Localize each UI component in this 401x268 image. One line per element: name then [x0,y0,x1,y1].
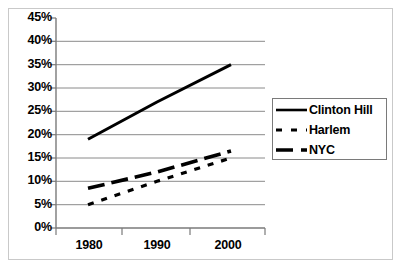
legend-label-nyc: NYC [309,143,335,157]
legend-swatch-solid-icon [273,103,309,117]
legend-item-harlem[interactable]: Harlem [273,120,386,140]
legend-item-nyc[interactable]: NYC [273,140,386,160]
chart-figure: 45% 40% 35% 30% 25% 20% 15% 10% 5% 0% 19… [0,0,401,268]
x-tick-label-2000: 2000 [198,239,258,252]
legend-label-clinton-hill: Clinton Hill [309,103,373,117]
legend-swatch-dotted-icon [273,123,309,137]
legend-label-harlem: Harlem [309,123,350,137]
x-tick-label-1980: 1980 [59,239,119,252]
legend-item-clinton-hill[interactable]: Clinton Hill [273,100,386,120]
legend: Clinton Hill Harlem NYC [272,98,387,160]
x-tick-label-1990: 1990 [127,239,187,252]
legend-swatch-dashed-icon [273,143,309,157]
